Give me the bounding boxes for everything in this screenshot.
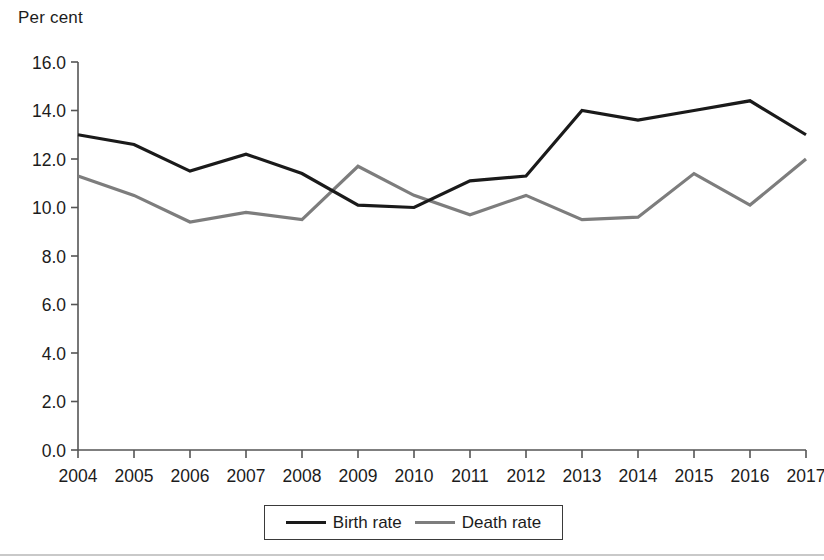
y-axis-tick-label: 2.0 [42, 392, 67, 412]
x-axis-tick-label: 2005 [115, 466, 154, 486]
x-axis-tick-label: 2004 [59, 466, 98, 486]
x-axis-group: 2004200520062007200820092010201120122013… [59, 450, 824, 486]
y-axis-tick-label: 14.0 [32, 101, 66, 121]
y-axis-tick-label: 16.0 [32, 53, 66, 73]
x-axis-tick-label: 2007 [227, 466, 266, 486]
x-axis-tick-label: 2016 [731, 466, 770, 486]
x-axis-tick-label: 2014 [619, 466, 658, 486]
series-line-birth-rate [78, 101, 806, 208]
legend-item-death-rate: Death rate [415, 513, 541, 533]
legend-item-birth-rate: Birth rate [286, 513, 402, 533]
legend-swatch-birth-rate-icon [286, 521, 326, 524]
y-axis-tick-label: 8.0 [42, 247, 67, 267]
chart-container: Per cent 0.02.04.06.08.010.012.014.016.0… [0, 0, 824, 560]
series-group [78, 101, 806, 222]
y-axis-tick-label: 10.0 [32, 198, 66, 218]
x-axis-tick-label: 2006 [171, 466, 210, 486]
y-axis-group: 0.02.04.06.08.010.012.014.016.0 [32, 53, 78, 461]
x-axis-tick-label: 2011 [451, 466, 489, 486]
x-axis-tick-label: 2012 [507, 466, 546, 486]
y-axis-tick-label: 6.0 [42, 295, 67, 315]
legend-swatch-death-rate-icon [415, 521, 455, 524]
bottom-divider [0, 554, 824, 556]
legend-label-death-rate: Death rate [462, 513, 541, 533]
x-axis-tick-label: 2008 [283, 466, 322, 486]
legend-label-birth-rate: Birth rate [333, 513, 402, 533]
x-axis-tick-label: 2015 [675, 466, 714, 486]
line-chart-plot: 0.02.04.06.08.010.012.014.016.0 20042005… [0, 0, 824, 560]
chart-legend: Birth rate Death rate [264, 505, 563, 540]
x-axis-tick-label: 2013 [563, 466, 602, 486]
y-axis-tick-label: 0.0 [42, 441, 67, 461]
x-axis-tick-label: 2009 [339, 466, 378, 486]
x-axis-tick-label: 2010 [395, 466, 434, 486]
y-axis-tick-label: 4.0 [42, 344, 67, 364]
y-axis-tick-label: 12.0 [32, 150, 66, 170]
x-axis-tick-label: 2017 [787, 466, 824, 486]
